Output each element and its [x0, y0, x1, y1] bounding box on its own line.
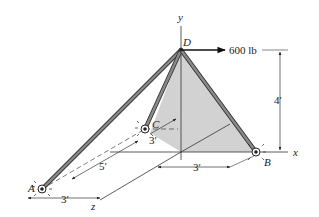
dim-label-5ft: 5′ — [99, 160, 107, 172]
dim-label-3ft-A: 3′ — [61, 193, 69, 205]
z-axis — [100, 152, 181, 200]
dim-label-3ft-B: 3′ — [193, 161, 201, 173]
label-z: z — [90, 200, 96, 212]
load-label: 600 lb — [229, 44, 257, 56]
label-y: y — [177, 11, 183, 23]
label-A: A — [27, 182, 35, 194]
label-x: x — [292, 146, 298, 158]
label-D: D — [182, 36, 191, 48]
dim-label-3ft-C: 3′ — [149, 134, 157, 146]
dim-label-4ft: 4′ — [274, 94, 282, 106]
statics-diagram: 600 lb y x z D C B A 4′ 3′ 5′ 3′ 3′ — [0, 0, 319, 217]
label-C: C — [152, 118, 160, 130]
label-B: B — [264, 156, 271, 168]
dim-3ft-B-ext — [230, 156, 254, 167]
